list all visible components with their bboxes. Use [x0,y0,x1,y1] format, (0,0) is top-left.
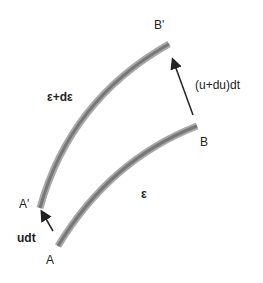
label-b: B [200,136,208,148]
label-udt: udt [17,232,36,244]
label-b-prime: B' [154,19,164,31]
label-a: A [46,254,54,266]
label-epsilon: ε [141,188,147,200]
label-epsilon-plus-d-epsilon: ε+dε [47,91,73,103]
arrow-u-du-dt [173,60,193,115]
diagram-canvas [0,0,263,283]
label-u-plus-du-dt: (u+du)dt [195,79,240,91]
label-a-prime: A' [19,198,29,210]
arrow-udt [42,212,53,231]
curve-a-b [58,126,197,246]
